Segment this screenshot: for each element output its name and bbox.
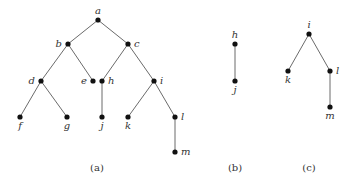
node-e bbox=[90, 78, 95, 83]
edge-b-d bbox=[41, 44, 68, 81]
node-label-b: b bbox=[56, 38, 62, 49]
node-label-c: c bbox=[134, 38, 140, 49]
node-label-k: k bbox=[285, 74, 291, 85]
node-label-k: k bbox=[125, 120, 131, 131]
node-l bbox=[327, 68, 332, 73]
node-label-f: f bbox=[17, 120, 24, 131]
node-g bbox=[64, 114, 69, 119]
node-a bbox=[95, 17, 100, 22]
node-b bbox=[65, 41, 70, 46]
node-m bbox=[327, 104, 332, 109]
node-label-a: a bbox=[95, 5, 101, 16]
edge-a-c bbox=[98, 20, 128, 44]
node-label-i: i bbox=[160, 75, 163, 86]
node-c bbox=[125, 41, 130, 46]
edge-c-i bbox=[128, 44, 154, 81]
node-j bbox=[232, 78, 237, 83]
node-i bbox=[306, 31, 311, 36]
figure-a-rooted-tree: abcdehifgjklm bbox=[17, 5, 190, 157]
node-label-i: i bbox=[307, 19, 310, 30]
node-k bbox=[125, 114, 130, 119]
node-label-e: e bbox=[81, 75, 87, 86]
figure-c-subtree-i: iklm bbox=[285, 19, 339, 121]
caption-c: (c) bbox=[302, 162, 316, 173]
node-label-m: m bbox=[325, 110, 334, 121]
node-label-m: m bbox=[181, 146, 190, 157]
node-label-l: l bbox=[336, 65, 339, 76]
edge-c-h bbox=[102, 44, 128, 81]
node-label-l: l bbox=[181, 111, 184, 122]
node-f bbox=[17, 114, 22, 119]
edge-i-k bbox=[128, 81, 154, 117]
node-label-h: h bbox=[232, 29, 238, 40]
node-i bbox=[151, 78, 156, 83]
caption-a: (a) bbox=[90, 162, 104, 173]
node-label-d: d bbox=[29, 75, 35, 86]
edge-i-l bbox=[154, 81, 175, 117]
node-h bbox=[232, 41, 237, 46]
edge-d-f bbox=[20, 81, 41, 117]
edge-i-k bbox=[288, 34, 309, 71]
node-label-j: j bbox=[231, 84, 236, 95]
figure-b-subtree-h: hj bbox=[231, 29, 238, 95]
edge-i-l bbox=[309, 34, 330, 71]
node-k bbox=[285, 68, 290, 73]
node-d bbox=[38, 78, 43, 83]
tree-diagram: abcdehifgjklm hj iklm (a) (b) (c) bbox=[0, 0, 356, 184]
node-h bbox=[99, 78, 104, 83]
node-l bbox=[172, 114, 177, 119]
caption-b: (b) bbox=[228, 162, 242, 173]
node-j bbox=[99, 114, 104, 119]
node-label-j: j bbox=[98, 120, 103, 131]
node-m bbox=[172, 149, 177, 154]
node-label-h: h bbox=[108, 75, 114, 86]
edge-a-b bbox=[68, 20, 98, 44]
node-label-g: g bbox=[64, 120, 70, 131]
edge-d-g bbox=[41, 81, 67, 117]
